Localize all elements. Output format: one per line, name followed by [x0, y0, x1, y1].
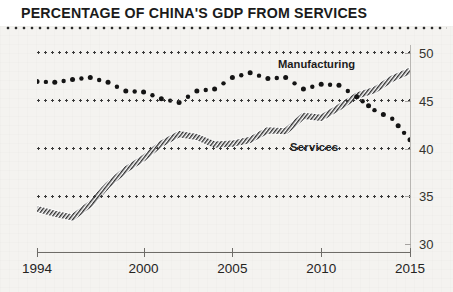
y-tick-45: [405, 101, 411, 102]
manufacturing-marker: [310, 84, 314, 88]
gridline-50: [37, 51, 410, 54]
x-tick-2005: [232, 248, 233, 257]
manufacturing-marker: [106, 80, 111, 85]
manufacturing-marker: [79, 76, 83, 80]
y-tick-label-45: 45: [419, 93, 433, 108]
manufacturing-marker: [372, 108, 376, 112]
manufacturing-marker: [292, 81, 296, 85]
manufacturing-marker: [194, 89, 199, 94]
y-tick-label-30: 30: [419, 237, 433, 252]
manufacturing-marker: [346, 89, 350, 93]
manufacturing-marker: [366, 103, 371, 108]
x-tick-2015: [410, 248, 411, 257]
manufacturing-marker: [61, 79, 65, 83]
y-tick-label-50: 50: [419, 45, 433, 60]
manufacturing-marker: [212, 87, 217, 92]
x-tick-2000: [144, 248, 145, 257]
manufacturing-marker: [132, 89, 136, 93]
x-tick-label-1994: 1994: [22, 261, 52, 276]
y-tick-40: [405, 149, 411, 150]
manufacturing-series: [37, 70, 410, 142]
y-tick-30: [405, 244, 411, 245]
x-tick-label-2005: 2005: [217, 261, 247, 276]
gridline-40: [37, 147, 410, 150]
manufacturing-marker: [239, 73, 243, 77]
series-label-manufacturing: Manufacturing: [278, 58, 355, 70]
manufacturing-marker: [70, 77, 75, 82]
manufacturing-marker: [97, 78, 101, 82]
x-tick-label-2000: 2000: [129, 261, 159, 276]
manufacturing-marker: [396, 123, 401, 128]
manufacturing-marker: [141, 89, 146, 94]
manufacturing-marker: [248, 70, 253, 75]
y-tick-label-40: 40: [419, 141, 433, 156]
manufacturing-marker: [402, 131, 406, 135]
manufacturing-marker: [265, 76, 270, 81]
manufacturing-marker: [381, 112, 386, 117]
page-title: PERCENTAGE OF CHINA'S GDP FROM SERVICES: [21, 5, 367, 21]
manufacturing-marker: [123, 89, 128, 94]
manufacturing-marker: [336, 83, 341, 88]
manufacturing-marker: [257, 73, 261, 77]
manufacturing-marker: [275, 76, 279, 80]
manufacturing-marker: [283, 75, 288, 80]
x-tick-1994: [37, 248, 38, 257]
manufacturing-marker: [301, 87, 306, 92]
manufacturing-marker: [230, 75, 235, 80]
manufacturing-marker: [390, 117, 394, 121]
x-tick-label-2015: 2015: [395, 261, 425, 276]
manufacturing-marker: [44, 80, 48, 84]
manufacturing-marker: [115, 84, 119, 88]
chart-canvas: PERCENTAGE OF CHINA'S GDP FROM SERVICES …: [0, 0, 453, 292]
manufacturing-marker: [37, 79, 40, 84]
series-label-services: Services: [290, 141, 338, 153]
x-tick-label-2010: 2010: [306, 261, 336, 276]
y-tick-50: [405, 53, 411, 54]
manufacturing-marker: [52, 80, 57, 85]
x-tick-2010: [321, 248, 322, 257]
gridline-35: [37, 195, 410, 198]
gridline-45: [37, 99, 410, 102]
title-divider: [6, 26, 447, 30]
manufacturing-marker: [328, 83, 332, 87]
manufacturing-marker: [88, 75, 93, 80]
manufacturing-marker: [221, 81, 225, 85]
x-axis-line: [37, 252, 411, 253]
y-tick-label-35: 35: [419, 189, 433, 204]
manufacturing-marker: [319, 82, 324, 87]
manufacturing-marker: [150, 93, 154, 97]
y-tick-35: [405, 196, 411, 197]
manufacturing-marker: [204, 88, 208, 92]
